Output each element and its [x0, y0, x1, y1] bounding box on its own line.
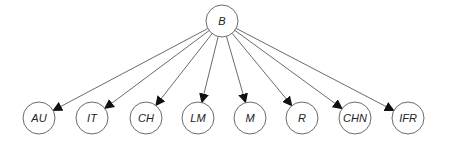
edges-group: [53, 28, 394, 110]
edge-b-to-r: [232, 33, 292, 105]
nodes-group: BAUITCHLMMRCHNIFR: [23, 5, 424, 134]
node-label: LM: [190, 112, 206, 124]
edge-b-to-lm: [202, 37, 218, 103]
node-chn: CHN: [339, 102, 371, 134]
node-label: M: [245, 112, 255, 124]
node-lm: LM: [182, 102, 214, 134]
tree-diagram: BAUITCHLMMRCHNIFR: [0, 0, 451, 145]
node-r: R: [286, 102, 318, 134]
diagram-svg: BAUITCHLMMRCHNIFR: [0, 0, 451, 145]
node-label: IT: [87, 112, 98, 124]
node-label: CH: [138, 112, 154, 124]
node-ch: CH: [130, 102, 162, 134]
edge-b-to-ifr: [236, 28, 394, 110]
node-m: M: [234, 102, 266, 134]
node-au: AU: [23, 102, 55, 134]
node-ifr: IFR: [392, 102, 424, 134]
node-label: AU: [30, 112, 46, 124]
node-label: CHN: [343, 112, 367, 124]
node-b: B: [206, 5, 238, 37]
node-label: IFR: [399, 112, 417, 124]
node-it: IT: [76, 102, 108, 134]
edge-b-to-chn: [235, 30, 342, 108]
edge-b-to-au: [53, 28, 208, 110]
node-label: B: [218, 15, 225, 27]
edge-b-to-it: [105, 31, 209, 109]
node-label: R: [298, 112, 306, 124]
